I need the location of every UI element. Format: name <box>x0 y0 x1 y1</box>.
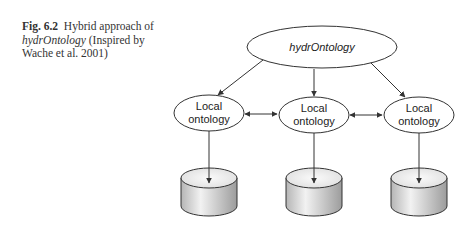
local-ontology-node-3: Local ontology <box>384 97 454 133</box>
svg-text:ontology: ontology <box>293 115 335 127</box>
svg-text:Local: Local <box>301 102 327 114</box>
svg-text:ontology: ontology <box>398 115 440 127</box>
global-ontology-label: hydrOntology <box>289 41 356 53</box>
global-ontology-node: hydrOntology <box>247 26 397 68</box>
local-ontology-node-1: Local ontology <box>174 95 244 131</box>
svg-text:Local: Local <box>406 102 432 114</box>
svg-text:Local: Local <box>196 100 222 112</box>
hybrid-ontology-diagram: hydrOntology Local ontology Local ontolo… <box>0 0 471 229</box>
svg-text:ontology: ontology <box>188 113 230 125</box>
source-arrowheads <box>209 168 419 183</box>
local-ontology-node-2: Local ontology <box>279 97 349 133</box>
